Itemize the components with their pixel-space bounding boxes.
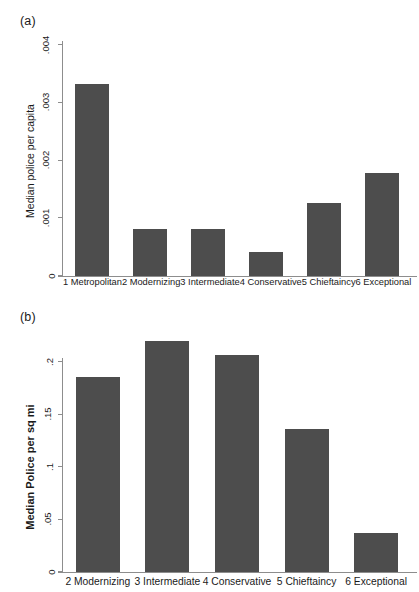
bar[interactable] xyxy=(145,341,189,572)
x-tick-label: 2 Modernizing xyxy=(63,576,133,587)
x-tick-label: 3 Intermediate xyxy=(180,277,239,287)
y-tick-label: 0 xyxy=(47,273,57,278)
x-tick-label: 4 Conservative xyxy=(202,576,272,587)
bar-slot xyxy=(295,45,353,276)
bar[interactable] xyxy=(75,84,109,276)
bar[interactable] xyxy=(285,429,329,572)
x-tick-label: 4 Conservative xyxy=(240,277,302,287)
bar[interactable] xyxy=(365,173,399,276)
y-tick-label: .001 xyxy=(40,209,50,228)
x-tick-label: 3 Intermediate xyxy=(133,576,203,587)
plot-area-a: Median police per capita 0.001.002.003.0… xyxy=(62,45,411,276)
bar[interactable] xyxy=(76,377,120,572)
x-tick-label: 5 Chieftaincy xyxy=(302,277,356,287)
y-tick: .15 xyxy=(58,414,62,415)
x-tick-label: 6 Exceptional xyxy=(341,576,411,587)
y-tick: .1 xyxy=(58,466,62,467)
bar[interactable] xyxy=(191,229,225,276)
bar-slot xyxy=(341,362,411,572)
y-tick: 0 xyxy=(58,571,62,572)
bar-slot xyxy=(179,45,237,276)
x-axis-line-b xyxy=(58,572,417,573)
x-tick-label: 1 Metropolitan xyxy=(63,277,122,287)
bar[interactable] xyxy=(307,203,341,276)
x-tick-label: 5 Chieftaincy xyxy=(272,576,342,587)
bar[interactable] xyxy=(249,252,283,276)
x-tick-labels-a: 1 Metropolitan2 Modernizing3 Intermediat… xyxy=(63,277,411,287)
y-tick: .003 xyxy=(58,102,62,103)
y-tick-label: .004 xyxy=(40,35,50,54)
bar[interactable] xyxy=(215,355,259,572)
bar[interactable] xyxy=(354,533,398,572)
bar-slot xyxy=(121,45,179,276)
y-tick-label: .2 xyxy=(45,358,55,366)
bar-slot xyxy=(202,362,272,572)
y-tick-label: .003 xyxy=(40,93,50,112)
y-axis-title-b: Median Police per sq mi xyxy=(24,404,36,529)
bar[interactable] xyxy=(133,229,167,276)
y-tick: .05 xyxy=(58,519,62,520)
y-tick-label: .15 xyxy=(43,407,53,420)
plot-area-b: Median Police per sq mi 0.05.1.15.2 2 Mo… xyxy=(62,362,411,572)
bar-slot xyxy=(237,45,295,276)
bar-group-a xyxy=(63,45,411,276)
panel-label-b: (b) xyxy=(20,310,36,324)
y-tick: .002 xyxy=(58,160,62,161)
y-tick: .004 xyxy=(58,44,62,45)
y-tick-label: .002 xyxy=(40,151,50,170)
y-axis-title-a: Median police per capita xyxy=(24,104,36,218)
y-tick-label: 0 xyxy=(47,569,57,574)
bar-slot xyxy=(353,45,411,276)
bar-slot xyxy=(272,362,342,572)
y-tick-label: .05 xyxy=(43,512,53,525)
x-tick-label: 2 Modernizing xyxy=(122,277,180,287)
bar-group-b xyxy=(63,362,411,572)
x-tick-labels-b: 2 Modernizing3 Intermediate4 Conservativ… xyxy=(63,576,411,587)
y-tick: .2 xyxy=(58,361,62,362)
chart-panel-b: (b) Median Police per sq mi 0.05.1.15.2 … xyxy=(0,300,419,592)
x-tick-label: 6 Exceptional xyxy=(356,277,412,287)
y-tick: 0 xyxy=(58,275,62,276)
bar-slot xyxy=(63,362,133,572)
bar-slot xyxy=(133,362,203,572)
panel-label-a: (a) xyxy=(20,14,36,28)
y-tick-label: .1 xyxy=(45,463,55,471)
y-tick: .001 xyxy=(58,217,62,218)
bar-slot xyxy=(63,45,121,276)
chart-panel-a: (a) Median police per capita 0.001.002.0… xyxy=(0,0,419,300)
